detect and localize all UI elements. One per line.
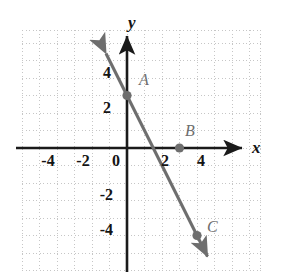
plotted-line: [106, 54, 208, 257]
x-tick-label-neg2: -2: [76, 153, 89, 169]
data-point-a[interactable]: [122, 91, 131, 100]
data-point-b[interactable]: [175, 143, 184, 152]
point-label-b: B: [185, 123, 195, 139]
y-axis-label: y: [128, 14, 136, 31]
grid-vertical-lines: [22, 30, 260, 271]
x-tick-label-0: 0: [112, 153, 120, 169]
y-tick-label-neg4: -4: [100, 222, 113, 238]
plot-canvas: [0, 0, 282, 276]
x-tick-label-2: 2: [161, 153, 169, 169]
x-tick-label-neg4: -4: [41, 153, 54, 169]
x-axis-label: x: [252, 139, 261, 156]
y-tick-label-4: 4: [103, 65, 111, 81]
point-label-a: A: [139, 72, 149, 88]
y-tick-label-2: 2: [103, 100, 111, 116]
grid-horizontal-lines: [22, 31, 261, 271]
coordinate-plane-figure: 4 2 -2 -4 -4 -2 0 2 4 y x A B C: [0, 0, 282, 276]
data-point-c[interactable]: [192, 231, 201, 240]
y-tick-label-neg2: -2: [100, 187, 113, 203]
x-tick-label-4: 4: [197, 153, 205, 169]
point-label-c: C: [207, 219, 218, 235]
